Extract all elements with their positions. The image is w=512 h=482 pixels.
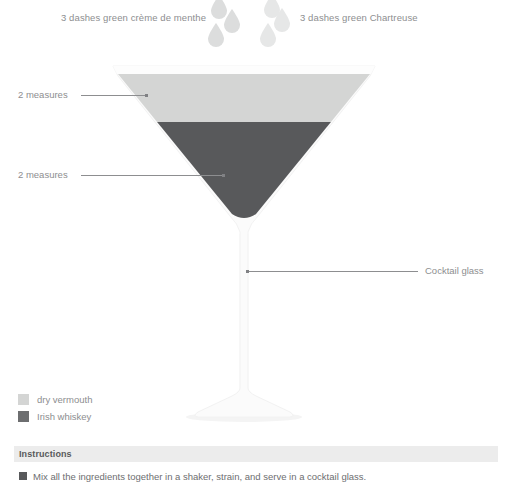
legend-label-irish-whiskey: Irish whiskey <box>37 411 91 422</box>
legend-swatch-dry-vermouth <box>18 394 29 405</box>
leader-dot-glassware <box>246 270 249 273</box>
annotation-top-layer-measure: 2 measures <box>18 89 68 100</box>
leader-dot-bottom-layer <box>222 174 225 177</box>
instructions-panel: Instructions Mix all the ingredients tog… <box>14 446 498 482</box>
legend: dry vermouth Irish whiskey <box>18 391 92 425</box>
leader-line-top-layer <box>81 95 147 96</box>
instruction-step-text: Mix all the ingredients together in a sh… <box>33 471 366 482</box>
droplet-icon <box>206 22 226 48</box>
droplet-icon <box>258 22 278 48</box>
legend-swatch-irish-whiskey <box>18 411 29 422</box>
annotation-glassware: Cocktail glass <box>425 265 484 276</box>
step-number-marker <box>19 472 27 480</box>
annotation-bottom-layer-measure: 2 measures <box>18 169 68 180</box>
legend-label-dry-vermouth: dry vermouth <box>37 394 92 405</box>
instructions-header: Instructions <box>14 446 498 462</box>
instructions-title: Instructions <box>19 449 72 459</box>
legend-item-dry-vermouth: dry vermouth <box>18 391 92 408</box>
liquid-layer-irish-whiskey <box>110 122 380 232</box>
ingredient-label-chartreuse: 3 dashes green Chartreuse <box>300 12 418 23</box>
legend-item-irish-whiskey: Irish whiskey <box>18 408 92 425</box>
ingredient-label-creme-de-menthe: 3 dashes green crème de menthe <box>61 12 206 23</box>
liquid-layer-dry-vermouth <box>110 74 380 122</box>
leader-line-bottom-layer <box>81 175 224 176</box>
leader-dot-top-layer <box>145 94 148 97</box>
instruction-step: Mix all the ingredients together in a sh… <box>14 462 498 482</box>
leader-line-glassware <box>248 271 418 272</box>
